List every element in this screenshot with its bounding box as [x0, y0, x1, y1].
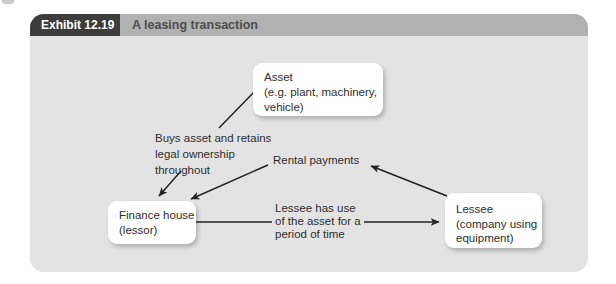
asset-node-line: (e.g. plant, machinery,	[264, 85, 377, 100]
buys-asset-label-line: throughout	[155, 162, 271, 178]
exhibit-figure: Exhibit 12.19 A leasing transaction Asse…	[0, 0, 616, 284]
finance-house-node: Finance house (lessor)	[108, 201, 196, 244]
asset-node: Asset (e.g. plant, machinery, vehicle)	[253, 63, 383, 116]
exhibit-number-label: Exhibit 12.19	[30, 14, 120, 36]
exhibit-title: A leasing transaction	[120, 14, 258, 36]
asset-node-line: Asset	[264, 70, 377, 85]
buys-asset-label-line: legal ownership	[155, 146, 271, 162]
finance-house-node-line: Finance house	[119, 208, 190, 223]
buys-asset-label: Buys asset and retains legal ownership t…	[155, 130, 271, 178]
lessee-node-line: equipment)	[456, 231, 536, 246]
rental-payments-label-line: Rental payments	[273, 153, 359, 168]
exhibit-header-bar: Exhibit 12.19 A leasing transaction	[30, 14, 588, 36]
lessee-use-label-line: period of time	[275, 228, 361, 241]
buys-asset-label-line: Buys asset and retains	[155, 130, 271, 146]
lessee-use-label: Lessee has use of the asset for a period…	[275, 202, 361, 241]
lessee-use-label-line: Lessee has use	[275, 202, 361, 215]
lessee-node-line: Lessee	[456, 202, 536, 217]
rental-payments-label: Rental payments	[273, 153, 359, 168]
scan-artifact	[2, 0, 14, 4]
lessee-node: Lessee (company using equipment)	[445, 193, 542, 248]
finance-house-node-line: (lessor)	[119, 223, 190, 238]
lessee-use-label-line: of the asset for a	[275, 215, 361, 228]
asset-node-line: vehicle)	[264, 100, 377, 115]
lessee-node-line: (company using	[456, 217, 536, 232]
